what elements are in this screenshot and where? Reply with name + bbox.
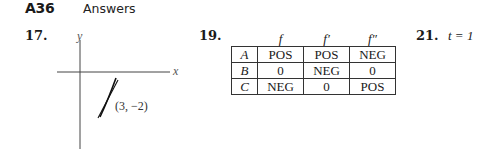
table-row: A POS POS NEG — [232, 47, 396, 63]
problem-17-graph: y x (3, −2) — [50, 30, 190, 149]
point-label: (3, −2) — [115, 99, 148, 114]
running-head: Answers — [83, 1, 136, 16]
table-cell: 0 — [350, 63, 396, 79]
column-header-f-prime: f′ — [304, 32, 350, 47]
problem-17-number: 17. — [25, 28, 48, 43]
curve — [100, 78, 116, 117]
problem-21-answer: t = 1 — [448, 28, 473, 44]
table-header-row: f f′ f″ — [232, 32, 396, 47]
page-number: A36 — [25, 0, 54, 16]
table-cell: NEG — [350, 47, 396, 63]
sign-table-wrapper: f f′ f″ A POS POS NEG B 0 NEG 0 C NEG 0 — [231, 32, 396, 95]
y-axis-label: y — [77, 29, 82, 44]
row-label: A — [232, 47, 258, 63]
table-cell: 0 — [258, 63, 304, 79]
table-cell: NEG — [258, 79, 304, 95]
table-row: B 0 NEG 0 — [232, 63, 396, 79]
row-label: B — [232, 63, 258, 79]
problem-19-number: 19. — [199, 28, 222, 43]
table-corner — [232, 32, 258, 47]
table-cell: NEG — [304, 63, 350, 79]
problem-21-number: 21. — [416, 28, 439, 43]
table-cell: 0 — [304, 79, 350, 95]
table-row: C NEG 0 POS — [232, 79, 396, 95]
row-label: C — [232, 79, 258, 95]
column-header-f-double-prime: f″ — [350, 32, 396, 47]
table-cell: POS — [350, 79, 396, 95]
x-axis-label: x — [173, 64, 178, 79]
table-cell: POS — [304, 47, 350, 63]
sign-table: f f′ f″ A POS POS NEG B 0 NEG 0 C NEG 0 — [231, 32, 396, 95]
table-cell: POS — [258, 47, 304, 63]
column-header-f: f — [258, 32, 304, 47]
tangent-line-graph — [50, 30, 190, 149]
